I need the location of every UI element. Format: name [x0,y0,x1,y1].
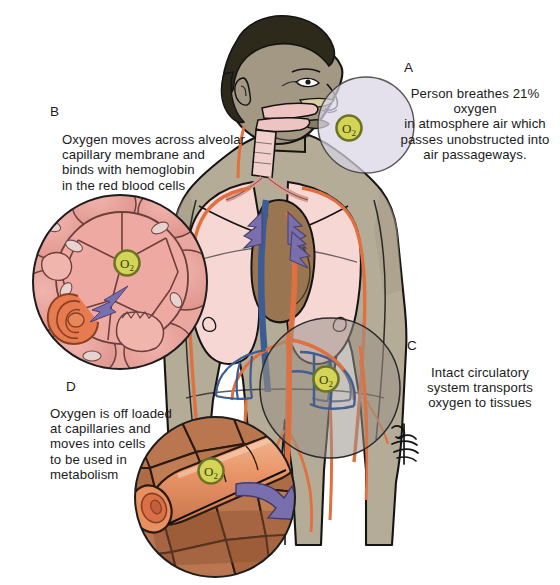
o2-marker-a: O2 [337,116,362,141]
callout-c-letter: C [407,338,555,354]
pharynx [256,118,310,131]
callout-d-text: Oxygen is off loaded at capillaries and … [50,406,216,483]
callout-d-letter: D [66,379,216,395]
illustration-canvas: O2 O2 O2 O2 A Perso [0,0,560,585]
o2-marker-b: O2 [115,251,140,276]
callout-c: C Intact circulatory system transports o… [405,338,555,411]
callout-b: B Oxygen moves across alveolar capillary… [48,104,263,193]
callout-d: D Oxygen is off loaded at capillaries an… [36,379,216,482]
callout-a-letter: A [404,60,560,76]
callout-a: A Person breathes 21% oxygen in atmosphe… [390,60,560,162]
callout-b-text: Oxygen moves across alveolar capillary m… [62,132,263,193]
callout-a-text: Person breathes 21% oxygen in atmosphere… [390,86,560,163]
o2-marker-c: O2 [314,367,339,392]
callout-b-letter: B [50,104,263,120]
callout-c-text: Intact circulatory system transports oxy… [405,365,555,411]
